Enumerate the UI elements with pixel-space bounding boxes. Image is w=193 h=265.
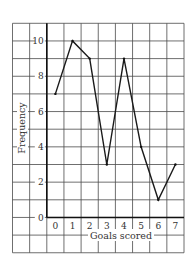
y-axis-label: Frequency xyxy=(16,102,27,154)
data-point xyxy=(54,93,56,95)
x-tick-label: 7 xyxy=(173,221,179,231)
data-point xyxy=(157,199,159,201)
x-tick-label: 0 xyxy=(53,221,59,231)
frequency-polygon-chart: 0246810 01234567 Goals scored Frequency xyxy=(0,0,193,265)
x-tick-label: 6 xyxy=(155,221,161,231)
data-point xyxy=(88,57,90,59)
data-point xyxy=(123,57,125,59)
data-point xyxy=(140,146,142,148)
y-tick-label: 6 xyxy=(38,107,44,117)
y-tick-label: 2 xyxy=(38,177,44,187)
y-tick-label: 10 xyxy=(32,36,44,46)
data-point xyxy=(106,163,108,165)
x-axis-label: Goals scored xyxy=(90,230,152,241)
data-point xyxy=(174,163,176,165)
y-tick-label: 4 xyxy=(38,142,44,152)
data-point xyxy=(71,40,73,42)
y-tick-label: 8 xyxy=(38,71,44,81)
x-tick-label: 1 xyxy=(70,221,76,231)
y-tick-label: 0 xyxy=(38,213,44,223)
